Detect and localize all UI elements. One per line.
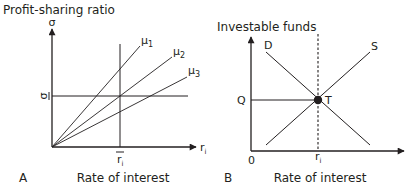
ri-label: ri xyxy=(315,150,322,165)
panel-b-x-axis-title: Rate of interest xyxy=(274,171,367,185)
panel-b: Investable funds D S T Q 0 ri B Rate of … xyxy=(217,20,404,185)
diagram-canvas: Profit-sharing ratio σ μ1 μ2 μ3 σ ri ri … xyxy=(0,0,419,192)
ri-bar-label: ri xyxy=(116,152,124,168)
equilibrium-label: T xyxy=(324,94,332,107)
sigma-bar-label: σ xyxy=(37,92,50,100)
panel-a-x-axis-title: Rate of interest xyxy=(77,171,170,185)
panel-b-y-axis-title: Investable funds xyxy=(217,20,316,34)
origin-label: 0 xyxy=(248,154,255,167)
svg-text:σ: σ xyxy=(37,92,50,99)
panel-b-label: B xyxy=(224,171,232,185)
panel-a: Profit-sharing ratio σ μ1 μ2 μ3 σ ri ri … xyxy=(3,3,207,185)
sigma-axis-label: σ xyxy=(49,16,56,29)
panel-a-y-axis-title: Profit-sharing ratio xyxy=(3,3,115,17)
q-label: Q xyxy=(237,94,246,107)
panel-a-label: A xyxy=(19,171,28,185)
equilibrium-point xyxy=(314,96,322,104)
mu3-label: μ3 xyxy=(188,64,200,79)
supply-label: S xyxy=(371,40,378,53)
ri-axis-label: ri xyxy=(200,141,207,156)
mu1-label: μ1 xyxy=(141,34,153,49)
svg-text:ri: ri xyxy=(117,153,124,168)
mu2-line xyxy=(52,57,172,147)
mu2-label: μ2 xyxy=(173,45,185,60)
demand-label: D xyxy=(264,39,272,52)
